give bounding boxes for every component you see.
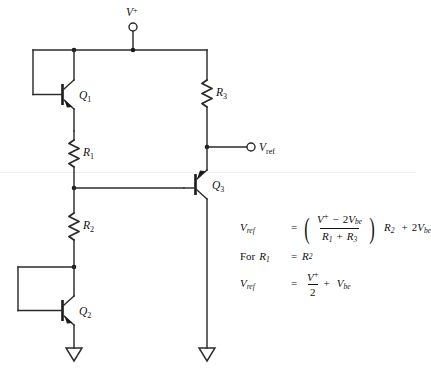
r1-zigzag [69,140,79,167]
vref-terminal-circle [247,143,255,151]
q1-label: Q1 [79,89,91,104]
eq1-close-paren: ) [369,217,375,239]
ground-symbol-left [66,348,82,361]
eq1-tail-plus: + [402,222,408,233]
eq3-fraction: V+ 2 [302,270,324,298]
supply-terminal-label: V+ [126,6,138,18]
vref-output-group [205,143,255,151]
supply-terminal-circle [129,23,137,31]
eq3-numerator: V+ [305,270,321,284]
transistor-q2-group: Q2 [18,265,91,348]
equation-row-1: Vref = ( V+−2Vbe R1+R3 ) R2 + 2Vbe [240,212,416,244]
eq3-relation: = [286,278,302,289]
q2-collector-diagonal [64,296,74,305]
equation-row-3: Vref = V+ 2 + Vbe [240,270,416,298]
q3-emitter-diagonal [197,190,207,199]
r2-zigzag [69,213,79,240]
q1-collector-diagonal [64,80,74,89]
r2-label: R2 [82,219,94,234]
r3-label: R3 [215,86,227,101]
ground-symbol-right [199,348,215,361]
eq3-tail-vbe: Vbe [337,278,351,290]
eq1-tail-vbe: 2Vbe [412,222,431,234]
equation-row-2: ForR1 = R2 [240,251,416,263]
eq1-denominator: R1+R3 [320,228,359,244]
mid-node-group [72,186,184,191]
eq2-relation: = [286,251,302,262]
ground-symbol-left-group [66,348,82,361]
eq1-numerator: V+−2Vbe [315,212,364,228]
eq1-lhs: Vref [240,222,286,234]
r1-label: R1 [82,146,94,161]
eq1-rhs: ( V+−2Vbe R1+R3 ) R2 + 2Vbe [302,212,431,244]
eq2-rhs: R2 [302,251,416,262]
eq3-denominator: 2 [308,284,318,298]
eq3-plus: + [324,278,330,289]
r3-zigzag [202,80,212,107]
eq1-fraction: V+−2Vbe R1+R3 [312,212,367,244]
q3-collector-arrow [197,171,205,179]
transistor-q3-group: Q3 [184,147,224,348]
vref-terminal-label: Vref [259,141,275,156]
eq3-rhs: V+ 2 + Vbe [302,270,416,298]
eq2-lhs: ForR1 [240,251,286,263]
ground-symbol-right-group [199,348,215,361]
resistor-r3-group: R3 [202,50,227,147]
equations-block: Vref = ( V+−2Vbe R1+R3 ) R2 + 2Vbe ForR1… [240,212,416,305]
eq1-tail-r2: R2 [384,222,394,234]
q1-emitter-arrow [64,100,72,108]
eq1-parenthesized-fraction: ( V+−2Vbe R1+R3 ) [302,212,377,244]
eq3-lhs: Vref [240,278,286,290]
resistor-r1-group: R1 [69,131,94,188]
q2-emitter-arrow [64,316,72,324]
eq1-open-paren: ( [304,217,310,239]
eq1-relation: = [286,222,302,233]
q3-label: Q3 [212,179,224,194]
resistor-r2-group: R2 [69,188,94,267]
node-supply-rail [131,48,136,53]
transistor-q1-group: Q1 [33,50,91,131]
supply-rail-group [33,23,207,52]
q2-label: Q2 [79,305,91,320]
